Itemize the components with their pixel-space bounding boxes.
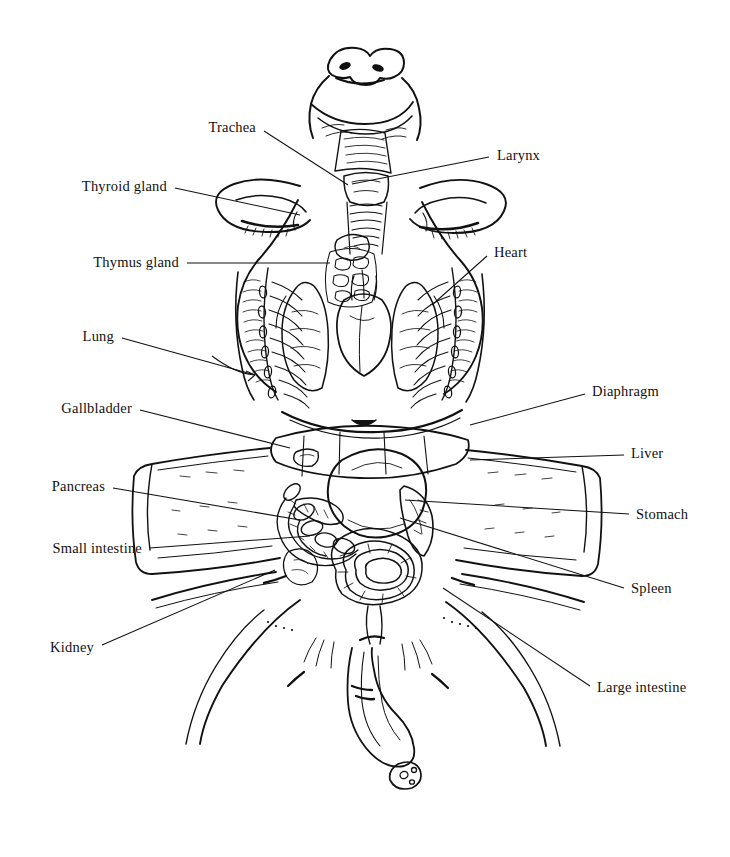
label-larynx: Larynx — [497, 148, 540, 163]
label-kidney: Kidney — [50, 640, 94, 655]
label-gallbladder: Gallbladder — [61, 401, 132, 416]
label-liver: Liver — [631, 446, 663, 461]
label-diaphragm: Diaphragm — [592, 384, 659, 399]
label-heart: Heart — [494, 245, 527, 260]
anatomy-figure-page: TracheaLarynxThyroid glandThymus glandHe… — [0, 0, 730, 857]
label-trachea: Trachea — [208, 120, 256, 135]
label-spleen: Spleen — [631, 581, 672, 596]
label-small-intestine: Small intestine — [52, 541, 142, 556]
label-large-intestine: Large intestine — [597, 680, 686, 695]
label-lung: Lung — [83, 329, 114, 344]
figure-background — [0, 0, 730, 857]
label-thymus-gland: Thymus gland — [93, 255, 179, 270]
label-pancreas: Pancreas — [52, 479, 105, 494]
label-stomach: Stomach — [636, 507, 688, 522]
label-thyroid-gland: Thyroid gland — [82, 179, 167, 194]
fetal-pig-dissection-illustration — [0, 0, 730, 857]
